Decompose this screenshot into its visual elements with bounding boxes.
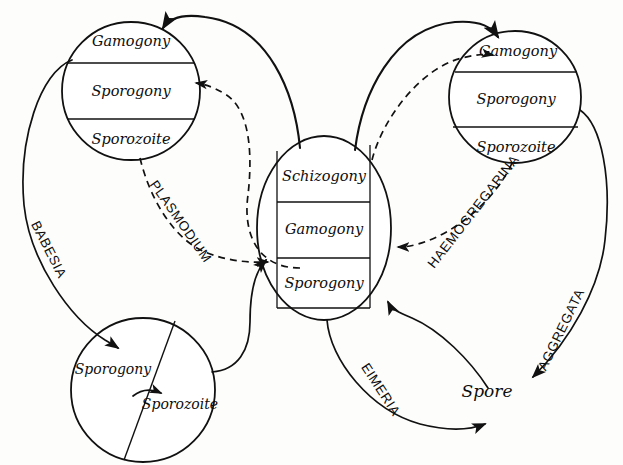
- genus-label-haemogregarina: HAEMOGREGARINA: [425, 152, 522, 271]
- stage-label-sporozoite: Sporozoite: [142, 396, 218, 412]
- diagram-canvas: Gamogony Sporogony Sporozoite Schizogony…: [0, 0, 623, 465]
- stage-label-sporogony: Sporogony: [284, 275, 364, 291]
- stage-label-gamogony: Gamogony: [285, 221, 364, 237]
- stage-label-spore: Spore: [462, 381, 513, 401]
- life-cycle-diagram: Gamogony Sporogony Sporozoite Schizogony…: [0, 0, 623, 465]
- upper-left-cycle: Gamogony Sporogony Sporozoite: [62, 22, 200, 160]
- lower-left-cycle: Sporogony Sporozoite: [71, 318, 218, 462]
- genus-label-plasmodium: PLASMODIUM: [147, 178, 215, 266]
- stage-label-sporogony: Sporogony: [91, 83, 171, 99]
- flow-eimeria-to-spore: [327, 320, 485, 429]
- stage-label-sporozoite: Sporozoite: [91, 131, 170, 147]
- upper-right-cycle: Gamogony Sporogony Sporozoite: [449, 31, 581, 163]
- stage-label-sporozoite: Sporozoite: [476, 139, 555, 155]
- stage-label-sporogony: Sporogony: [75, 361, 153, 377]
- stage-label-schizogony: Schizogony: [282, 168, 367, 184]
- stage-label-sporogony: Sporogony: [476, 91, 556, 107]
- flow-lower-left-to-center: [212, 260, 266, 372]
- stage-label-gamogony: Gamogony: [92, 33, 171, 49]
- genus-label-eimeria: EIMERIA: [358, 360, 403, 418]
- stage-label-gamogony: Gamogony: [479, 43, 558, 59]
- genus-label-aggregata: AGGREGATA: [535, 286, 587, 372]
- center-cycle: Schizogony Gamogony Sporogony: [257, 136, 391, 320]
- flow-spore-to-center: [388, 302, 488, 388]
